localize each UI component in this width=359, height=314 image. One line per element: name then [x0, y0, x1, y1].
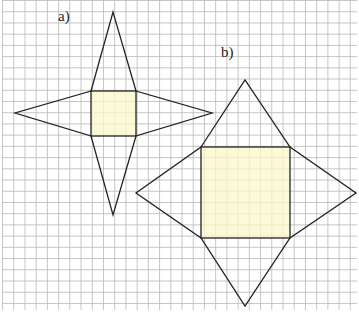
label-b: b)	[221, 44, 234, 61]
figure-a	[15, 12, 212, 215]
grid-canvas	[0, 0, 359, 314]
figure-b	[136, 80, 356, 306]
figures	[15, 12, 356, 306]
grid-lines	[2, 0, 357, 310]
grid-diagram: a) b)	[0, 0, 359, 314]
label-a: a)	[58, 8, 70, 25]
